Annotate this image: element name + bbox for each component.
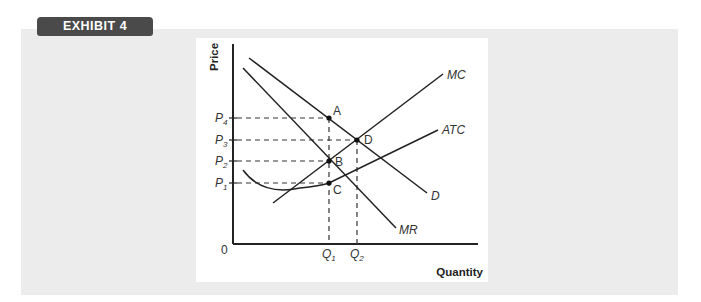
tick-q1: Q1 bbox=[322, 247, 336, 263]
label-point-d: D bbox=[364, 133, 373, 147]
tick-p3: P3 bbox=[215, 133, 228, 149]
tick-p4: P4 bbox=[215, 111, 228, 127]
tick-p2: P2 bbox=[215, 154, 228, 170]
label-point-a: A bbox=[333, 104, 341, 118]
tick-q2: Q2 bbox=[350, 247, 364, 263]
point-b bbox=[326, 158, 331, 163]
label-atc: ATC bbox=[441, 123, 465, 137]
x-axis-title: Quantity bbox=[436, 266, 483, 278]
monopoly-diagram: A D B C MC ATC D MR P4 P3 P2 P1 Q1 Q2 0 … bbox=[0, 0, 701, 302]
label-point-c: C bbox=[333, 183, 342, 197]
label-mr: MR bbox=[399, 223, 418, 237]
label-d: D bbox=[431, 189, 440, 203]
point-a bbox=[326, 115, 331, 120]
point-c bbox=[326, 180, 331, 185]
origin-label: 0 bbox=[221, 243, 228, 257]
tick-p1: P1 bbox=[215, 176, 227, 192]
label-point-b: B bbox=[335, 155, 343, 169]
y-axis-title: Price bbox=[208, 43, 220, 71]
mr-curve bbox=[243, 68, 396, 228]
label-mc: MC bbox=[447, 68, 466, 82]
point-d bbox=[354, 137, 359, 142]
demand-curve bbox=[249, 58, 427, 193]
